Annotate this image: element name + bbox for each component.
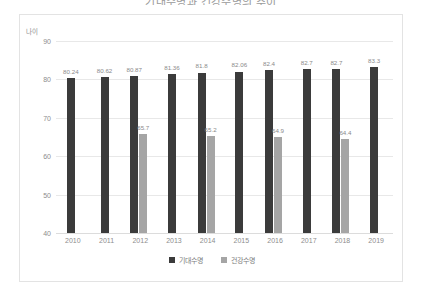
x-axis-tick-label: 2018 xyxy=(335,237,351,244)
bar-기대수명-2012[interactable] xyxy=(130,76,138,233)
bar-value-label: 65.7 xyxy=(137,124,149,131)
y-axis-tick-label: 70 xyxy=(43,114,51,121)
bar-group: 83.3 xyxy=(359,41,393,233)
y-axis-tick-label: 40 xyxy=(43,230,51,237)
x-axis-tick-label: 2011 xyxy=(99,237,114,244)
bar-value-label: 80.62 xyxy=(97,67,112,74)
bar-기대수명-2011[interactable] xyxy=(101,77,109,233)
bar-기대수명-2018[interactable] xyxy=(332,69,340,233)
plot-area: 405060708090 80.2480.6280.8765.781.3681.… xyxy=(56,41,393,233)
bar-group: 82.06 xyxy=(225,41,259,233)
bar-기대수명-2017[interactable] xyxy=(303,69,311,233)
x-axis-tick-label: 2013 xyxy=(166,237,182,244)
legend-item-0[interactable]: 기대수명 xyxy=(169,255,203,265)
bar-group: 82.764.4 xyxy=(326,41,360,233)
x-axis-tick-label: 2010 xyxy=(65,237,81,244)
legend-label: 기대수명 xyxy=(179,255,203,265)
bar-value-label: 80.87 xyxy=(126,66,141,73)
bar-value-label: 81.8 xyxy=(196,62,208,69)
bar-group: 80.8765.7 xyxy=(123,41,157,233)
bar-group: 82.464.9 xyxy=(258,41,292,233)
bar-기대수명-2016[interactable] xyxy=(265,70,273,233)
bar-value-label: 80.24 xyxy=(63,68,78,75)
bar-value-label: 82.4 xyxy=(263,60,275,67)
bar-value-label: 81.36 xyxy=(164,64,179,71)
legend-swatch-icon xyxy=(221,257,227,263)
bar-value-label: 82.7 xyxy=(301,59,313,66)
bars-layer: 80.2480.6280.8765.781.3681.865.282.0682.… xyxy=(56,41,393,233)
bar-건강수명-2018[interactable] xyxy=(341,139,349,233)
y-axis-tick-label: 90 xyxy=(43,38,51,45)
bar-value-label: 83.3 xyxy=(368,57,380,64)
x-axis-tick-label: 2014 xyxy=(200,237,216,244)
x-axis-ticks: 2010201120122013201420152016201720182019 xyxy=(56,237,393,251)
bar-group: 80.62 xyxy=(90,41,124,233)
gridline xyxy=(56,233,393,234)
bar-value-label: 82.7 xyxy=(330,59,342,66)
legend-item-1[interactable]: 건강수명 xyxy=(221,255,255,265)
bar-기대수명-2019[interactable] xyxy=(370,67,378,233)
legend-swatch-icon xyxy=(169,257,175,263)
y-axis-tick-label: 80 xyxy=(43,76,51,83)
bar-value-label: 82.06 xyxy=(232,61,247,68)
y-axis-title: 나이 xyxy=(26,26,38,36)
x-axis-tick-label: 2012 xyxy=(132,237,148,244)
bar-건강수명-2016[interactable] xyxy=(274,137,282,233)
chart-frame: 나이 405060708090 80.2480.6280.8765.781.36… xyxy=(19,14,403,282)
chart-title: 기대수명과 건강수명의 추이 xyxy=(0,0,422,5)
bar-group: 80.24 xyxy=(56,41,90,233)
x-axis-tick-label: 2019 xyxy=(368,237,384,244)
bar-value-label: 65.2 xyxy=(205,126,217,133)
y-axis-tick-label: 50 xyxy=(43,191,51,198)
y-axis-tick-label: 60 xyxy=(43,153,51,160)
bar-기대수명-2013[interactable] xyxy=(168,74,176,233)
bar-기대수명-2010[interactable] xyxy=(67,78,75,233)
bar-group: 82.7 xyxy=(292,41,326,233)
legend-label: 건강수명 xyxy=(231,255,255,265)
bar-기대수명-2014[interactable] xyxy=(198,73,206,234)
bar-건강수명-2012[interactable] xyxy=(139,134,147,233)
bar-group: 81.36 xyxy=(157,41,191,233)
bar-value-label: 64.4 xyxy=(339,129,351,136)
x-axis-tick-label: 2015 xyxy=(234,237,250,244)
x-axis-tick-label: 2016 xyxy=(267,237,283,244)
bar-건강수명-2014[interactable] xyxy=(207,136,215,233)
bar-value-label: 64.9 xyxy=(272,127,284,134)
bar-group: 81.865.2 xyxy=(191,41,225,233)
bar-기대수명-2015[interactable] xyxy=(235,72,243,234)
x-axis-tick-label: 2017 xyxy=(301,237,317,244)
chart-legend: 기대수명건강수명 xyxy=(20,255,404,265)
